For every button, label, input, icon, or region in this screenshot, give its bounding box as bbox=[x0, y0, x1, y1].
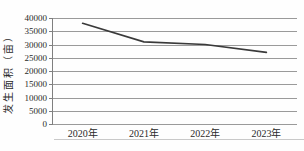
y-tick-label: 25000 bbox=[1, 53, 47, 63]
y-tick-label: 15000 bbox=[1, 79, 47, 89]
y-tick-label: 30000 bbox=[1, 40, 47, 50]
line-chart-figure: 发生面积（亩） 05000100001500020000250003000035… bbox=[0, 0, 304, 151]
y-tick-label: 5000 bbox=[1, 106, 47, 116]
y-tick-label: 10000 bbox=[1, 93, 47, 103]
y-tick-label: 40000 bbox=[1, 13, 47, 23]
y-tick-label: 35000 bbox=[1, 26, 47, 36]
y-tick-label: 0 bbox=[1, 119, 47, 129]
data-series-line bbox=[83, 23, 267, 52]
y-tick-label: 20000 bbox=[1, 66, 47, 76]
document-rule bbox=[54, 139, 304, 140]
